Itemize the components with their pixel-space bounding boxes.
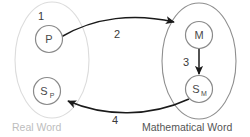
node-m[interactable]: M bbox=[186, 22, 213, 49]
node-sp-subscript: P bbox=[50, 92, 55, 99]
node-p-label: P bbox=[45, 33, 52, 45]
node-sm-subscript: M bbox=[201, 90, 207, 97]
node-sp-label: S bbox=[40, 85, 47, 97]
edge-4-label: 4 bbox=[112, 114, 118, 126]
node-sp[interactable]: S P bbox=[34, 78, 61, 105]
edge-4-group bbox=[68, 99, 189, 113]
region-label-mathematical-word: Mathematical Word bbox=[142, 121, 232, 133]
node-sm-label: S bbox=[192, 83, 199, 95]
node-sm[interactable]: S M bbox=[186, 76, 213, 103]
diagram-container: P S P M S M 1 2 3 4 Real Word Mathematic… bbox=[0, 0, 250, 137]
edge-3-label: 3 bbox=[183, 56, 189, 68]
node-p[interactable]: P bbox=[36, 26, 63, 53]
region-label-real-word: Real Word bbox=[12, 121, 62, 133]
edge-4-arrow bbox=[68, 99, 189, 113]
edge-1-label: 1 bbox=[38, 10, 44, 22]
node-m-label: M bbox=[194, 29, 203, 41]
diagram-canvas: P S P M S M 1 2 3 4 Real Word Mathematic… bbox=[0, 0, 250, 137]
edge-2-label: 2 bbox=[114, 28, 120, 40]
